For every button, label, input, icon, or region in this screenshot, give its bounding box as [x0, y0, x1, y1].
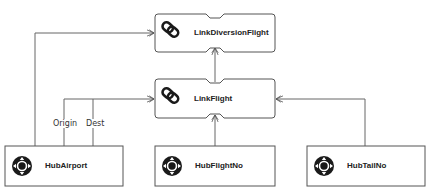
- node-label-hubairport: HubAirport: [45, 161, 87, 170]
- role-label-origin: Origin: [52, 119, 78, 128]
- hub-compass-icon: [12, 156, 32, 176]
- node-label-linkflight: LinkFlight: [194, 94, 232, 103]
- edge-hubairport-to-linkdiversionflight: [35, 33, 154, 146]
- edge-hubtailno-to-linkflight: [276, 99, 365, 146]
- node-label-hubtailno: HubTailNo: [347, 161, 386, 170]
- hub-compass-icon: [162, 156, 182, 176]
- role-label-dest: Dest: [85, 119, 105, 128]
- hub-compass-icon: [314, 156, 334, 176]
- node-label-linkdiversionflight: LinkDiversionFlight: [194, 28, 269, 37]
- node-label-hubflightno: HubFlightNo: [195, 161, 243, 170]
